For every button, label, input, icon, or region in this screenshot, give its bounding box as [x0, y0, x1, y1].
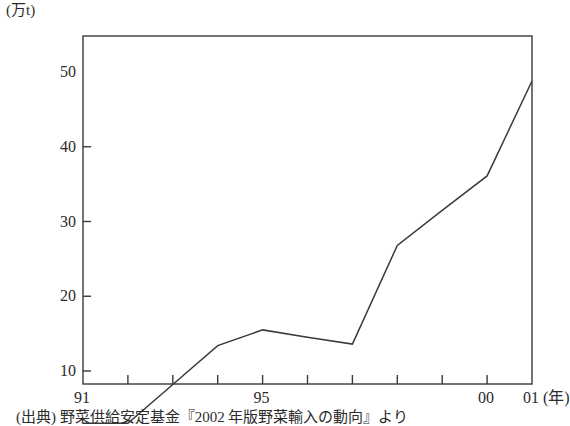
data-series-line	[83, 81, 532, 423]
source-note: (出典) 野菜供給安定基金『2002 年版野菜輸入の動向』より	[16, 408, 409, 426]
y-axis-tick-label: 50	[36, 64, 76, 80]
y-axis-tick-label: 30	[36, 214, 76, 230]
y-axis-ticks	[83, 147, 91, 371]
x-axis-tick-label: 91	[74, 390, 90, 406]
y-axis-tick-label: 40	[36, 139, 76, 155]
y-axis-tick-label: 10	[36, 363, 76, 379]
y-axis-tick-label: 20	[36, 288, 76, 304]
x-axis-unit-label: (年)	[543, 390, 570, 406]
plot-frame	[83, 36, 532, 384]
x-axis-tick-label: 00	[478, 390, 494, 406]
x-axis-tick-label: 01	[523, 390, 539, 406]
x-axis-tick-label: 95	[254, 390, 270, 406]
